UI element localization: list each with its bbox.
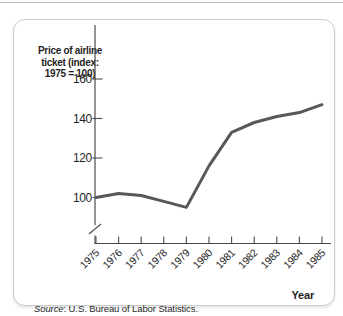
y-tick-label: 140 xyxy=(73,112,93,126)
y-tick-label: 160 xyxy=(73,72,93,86)
x-tick-label: 1985 xyxy=(303,246,327,270)
y-tick-label: 120 xyxy=(73,151,93,165)
x-tick-label: 1983 xyxy=(258,246,282,270)
x-tick-label: 1977 xyxy=(122,246,146,270)
x-tick-label: 1984 xyxy=(281,246,305,270)
data-line-series xyxy=(96,105,322,208)
x-tick-label: 1982 xyxy=(235,246,259,270)
x-tick-label: 1978 xyxy=(145,246,169,270)
x-tick-label: 1975 xyxy=(77,246,101,270)
line-chart: 1001201401601975197619771978197919801981… xyxy=(0,0,343,316)
y-tick-label: 100 xyxy=(73,191,93,205)
x-tick-label: 1980 xyxy=(190,246,214,270)
x-tick-label: 1979 xyxy=(168,246,192,270)
y-axis-break xyxy=(89,224,101,234)
x-tick-label: 1976 xyxy=(100,246,124,270)
x-tick-label: 1981 xyxy=(213,246,237,270)
